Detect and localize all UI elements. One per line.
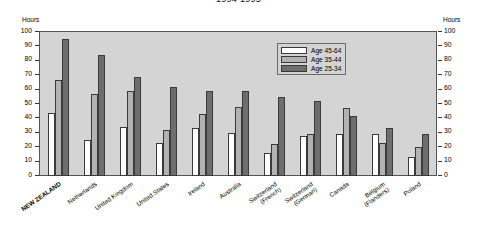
y-tick-label-left-40: 40 xyxy=(24,114,32,121)
legend-item: Age 35-44 xyxy=(281,55,341,63)
legend-label: Age 45-64 xyxy=(311,47,341,54)
x-axis-category-label: NEW ZEALAND xyxy=(20,180,62,212)
y-tick-left-50 xyxy=(35,103,39,104)
bar-chart: 1994-1995 Hours Hours 100908070605040302… xyxy=(0,0,477,238)
x-axis-category-label: Ireland xyxy=(186,180,206,197)
y-tick-left-100 xyxy=(35,31,39,32)
y-axis-right-unit-label: Hours xyxy=(443,16,460,23)
bar xyxy=(127,91,134,176)
y-tick-label-left-30: 30 xyxy=(24,128,32,135)
legend-item: Age 45-64 xyxy=(281,46,341,54)
y-tick-right-0 xyxy=(438,175,442,176)
bar-group xyxy=(112,32,148,176)
bar-group xyxy=(76,32,112,176)
legend-swatch xyxy=(281,65,307,72)
bar xyxy=(422,134,429,176)
y-tick-label-right-0: 0 xyxy=(444,172,448,179)
y-tick-label-right-50: 50 xyxy=(444,100,452,107)
y-tick-label-left-0: 0 xyxy=(28,172,32,179)
bar xyxy=(120,127,127,176)
y-tick-right-90 xyxy=(438,45,442,46)
bar xyxy=(343,108,350,176)
x-axis-category: Switzerland (French) xyxy=(256,178,292,238)
y-tick-right-60 xyxy=(438,89,442,90)
bar xyxy=(278,97,285,176)
x-axis-category-labels: NEW ZEALANDNetherlandsUnited KingdomUnit… xyxy=(40,178,436,238)
y-tick-label-right-20: 20 xyxy=(444,143,452,150)
y-tick-right-80 xyxy=(438,60,442,61)
x-axis-category: United Kingdom xyxy=(112,178,148,238)
bar-group xyxy=(400,32,436,176)
y-tick-right-40 xyxy=(438,117,442,118)
bar xyxy=(170,87,177,176)
y-tick-label-left-80: 80 xyxy=(24,56,32,63)
y-tick-label-right-100: 100 xyxy=(444,28,455,35)
bar xyxy=(84,140,91,176)
bar xyxy=(235,107,242,176)
y-tick-label-right-90: 90 xyxy=(444,42,452,49)
y-tick-label-right-40: 40 xyxy=(444,114,452,121)
y-tick-label-right-30: 30 xyxy=(444,128,452,135)
bar xyxy=(336,134,343,176)
x-axis-category-label: Australia xyxy=(218,180,242,200)
y-tick-label-left-70: 70 xyxy=(24,71,32,78)
y-tick-label-left-10: 10 xyxy=(24,157,32,164)
bar xyxy=(415,147,422,176)
y-tick-left-60 xyxy=(35,89,39,90)
x-axis-category: United States xyxy=(148,178,184,238)
bar xyxy=(134,77,141,176)
bar xyxy=(264,153,271,176)
legend-item: Age 25-34 xyxy=(281,64,341,72)
x-axis-category: Switzerland (German) xyxy=(292,178,328,238)
legend-label: Age 35-44 xyxy=(311,56,341,63)
y-tick-label-right-70: 70 xyxy=(444,71,452,78)
x-axis-category: Poland xyxy=(400,178,436,238)
y-tick-left-20 xyxy=(35,146,39,147)
y-tick-label-left-20: 20 xyxy=(24,143,32,150)
x-axis-category: Belgium (Flanders) xyxy=(364,178,400,238)
y-tick-left-80 xyxy=(35,60,39,61)
bar xyxy=(350,116,357,176)
bar xyxy=(206,91,213,176)
y-axis-left-unit-label: Hours xyxy=(22,16,39,23)
y-tick-label-left-50: 50 xyxy=(24,100,32,107)
y-tick-left-70 xyxy=(35,74,39,75)
bar xyxy=(62,39,69,176)
bar xyxy=(192,128,199,176)
bar xyxy=(242,91,249,176)
y-tick-label-left-60: 60 xyxy=(24,85,32,92)
bar xyxy=(199,114,206,176)
bar-groups xyxy=(40,32,436,176)
legend-label: Age 25-34 xyxy=(311,65,341,72)
y-tick-label-right-60: 60 xyxy=(444,85,452,92)
bar xyxy=(91,94,98,176)
y-tick-left-40 xyxy=(35,117,39,118)
bar xyxy=(379,143,386,176)
y-tick-left-10 xyxy=(35,161,39,162)
y-tick-label-left-100: 100 xyxy=(21,28,32,35)
bar xyxy=(408,157,415,176)
bar xyxy=(271,144,278,176)
chart-title: 1994-1995 xyxy=(0,0,477,4)
x-axis-category: Canada xyxy=(328,178,364,238)
legend-swatch xyxy=(281,56,307,63)
y-tick-left-0 xyxy=(35,175,39,176)
bar xyxy=(163,130,170,176)
bar xyxy=(98,55,105,176)
bar-group xyxy=(148,32,184,176)
bar xyxy=(314,101,321,176)
bar xyxy=(156,143,163,176)
bar xyxy=(228,133,235,176)
bar xyxy=(307,134,314,176)
y-tick-right-70 xyxy=(438,74,442,75)
y-tick-label-right-80: 80 xyxy=(444,56,452,63)
bar-group xyxy=(220,32,256,176)
bar xyxy=(372,134,379,176)
y-tick-left-30 xyxy=(35,132,39,133)
y-tick-label-right-10: 10 xyxy=(444,157,452,164)
x-axis-category-label: Canada xyxy=(328,180,350,198)
y-tick-right-30 xyxy=(438,132,442,133)
bar xyxy=(55,80,62,176)
legend-swatch xyxy=(281,47,307,54)
x-axis-category: Australia xyxy=(220,178,256,238)
